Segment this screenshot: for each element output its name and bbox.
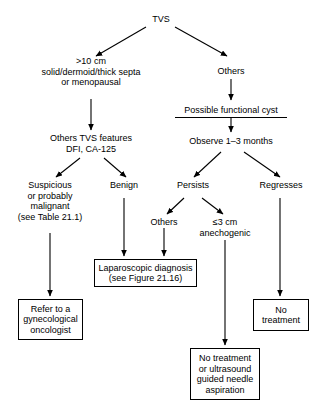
node-possible-functional-cyst-line-0: Possible functional cyst — [175, 105, 287, 116]
node-large-criteria-line-1: solid/dermoid/thick septa — [11, 67, 171, 78]
node-aspiration-line-3: aspiration — [205, 385, 244, 396]
node-suspicious-line-1: or probably — [8, 191, 92, 202]
node-no-treatment-or-aspiration: No treatment or ultrasound guided needle… — [190, 348, 260, 400]
node-tvs-line-0: TVS — [136, 14, 186, 25]
node-possible-functional-cyst: Possible functional cyst — [175, 105, 287, 118]
edge-tvsfeatures-to-benign — [104, 158, 126, 177]
node-large-criteria-line-0: >10 cm — [11, 56, 171, 67]
node-anechogenic: ≤3 cm anechogenic — [191, 217, 259, 238]
node-anechogenic-line-0: ≤3 cm — [191, 217, 259, 228]
node-no-treatment: No treatment — [253, 299, 309, 331]
node-refer-line-0: Refer to a — [31, 304, 71, 315]
edge-persists-to-anechogenic — [202, 198, 223, 214]
node-refer-line-1: gynecological — [23, 314, 78, 325]
node-refer-gynecological-oncologist: Refer to a gynecological oncologist — [18, 299, 83, 340]
node-persists: Persists — [168, 180, 218, 191]
node-other-tvs-features-line-0: Others TVS features — [31, 133, 151, 144]
node-others-top-line-0: Others — [206, 66, 256, 77]
node-observe-line-0: Observe 1–3 months — [181, 136, 281, 147]
node-tvs: TVS — [136, 14, 186, 25]
node-large-criteria-line-2: or menopausal — [11, 77, 171, 88]
node-aspiration-line-0: No treatment — [199, 353, 251, 364]
edge-observe-to-regresses — [244, 152, 280, 177]
node-laparoscopic-diagnosis-line-1: (see Figure 21.16) — [109, 273, 183, 284]
node-no-treatment-line-0: No — [275, 305, 287, 316]
node-other-tvs-features-line-1: DFI, CA-125 — [31, 144, 151, 155]
node-suspicious-line-3: (see Table 21.1) — [8, 212, 92, 223]
node-suspicious: Suspicious or probably malignant (see Ta… — [8, 180, 92, 222]
edge-persists-to-othersmid — [167, 198, 184, 214]
node-benign: Benign — [100, 180, 148, 191]
node-regresses: Regresses — [253, 180, 309, 191]
edge-tvs-to-large — [96, 27, 146, 56]
node-observe: Observe 1–3 months — [181, 136, 281, 147]
node-other-tvs-features: Others TVS features DFI, CA-125 — [31, 133, 151, 154]
flowchart-canvas: TVS >10 cm solid/dermoid/thick septa or … — [0, 0, 321, 414]
node-large-criteria: >10 cm solid/dermoid/thick septa or meno… — [11, 56, 171, 88]
edge-observe-to-persists — [194, 152, 221, 177]
node-suspicious-line-2: malignant — [8, 201, 92, 212]
node-laparoscopic-diagnosis-line-0: Laparoscopic diagnosis — [98, 263, 192, 274]
node-refer-line-2: oncologist — [30, 325, 71, 336]
edge-tvsfeatures-to-suspicious — [56, 158, 80, 177]
node-anechogenic-line-1: anechogenic — [191, 228, 259, 239]
node-others-top: Others — [206, 66, 256, 77]
node-laparoscopic-diagnosis: Laparoscopic diagnosis (see Figure 21.16… — [94, 259, 197, 287]
node-no-treatment-line-1: treatment — [262, 315, 300, 326]
node-aspiration-line-1: or ultrasound — [199, 364, 252, 375]
node-benign-line-0: Benign — [100, 180, 148, 191]
node-others-mid-line-0: Others — [140, 217, 188, 228]
node-persists-line-0: Persists — [168, 180, 218, 191]
node-aspiration-line-2: guided needle — [197, 374, 254, 385]
node-suspicious-line-0: Suspicious — [8, 180, 92, 191]
edge-tvs-to-others — [175, 27, 227, 56]
node-others-mid: Others — [140, 217, 188, 228]
node-regresses-line-0: Regresses — [253, 180, 309, 191]
